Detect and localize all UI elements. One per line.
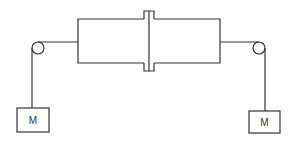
left-pulley-icon <box>32 42 44 54</box>
right-pulley-icon <box>253 42 265 54</box>
left-mass-label: M <box>29 115 37 126</box>
body-left-half <box>78 19 144 63</box>
body-right-half <box>154 19 220 63</box>
pulley-diagram: M M <box>0 0 296 142</box>
right-mass-label: M <box>260 117 268 128</box>
